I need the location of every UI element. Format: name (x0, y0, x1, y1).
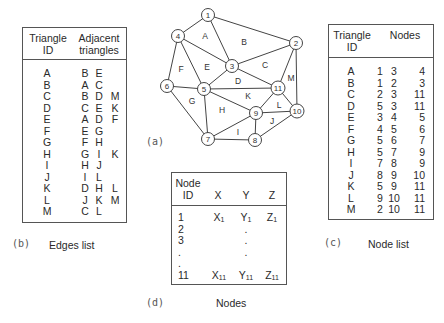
node-id: 7 (399, 135, 425, 146)
graph-node: 11 (271, 81, 285, 95)
table-row: GFH (23, 137, 126, 148)
node-id: 2 (373, 89, 387, 100)
table-row: KDHL (23, 183, 126, 194)
table-row: E345 (329, 112, 433, 123)
table-row: IHJ (23, 160, 126, 171)
triangle-id: G (341, 135, 361, 146)
adjacent-triangle: B (79, 91, 91, 102)
table-row: K5911 (329, 181, 433, 192)
node-label: 11 (274, 84, 283, 93)
adjacent-triangle: F (109, 114, 121, 125)
graph-node: 3 (226, 60, 239, 73)
adjacent-triangle: H (93, 183, 105, 194)
node-label: 4 (176, 32, 181, 41)
triangle-label: F (178, 64, 183, 74)
adjacent-triangle: C (79, 103, 91, 114)
adjacent-triangle: D (79, 183, 91, 194)
graph-edge (204, 88, 278, 89)
table-row: CBDM (23, 91, 126, 102)
node-id: 3 (399, 78, 425, 89)
triangle-id: E (37, 114, 57, 125)
triangle-id: J (37, 172, 57, 183)
triangle-id: A (341, 66, 361, 77)
node-id: 1 (178, 212, 184, 223)
node-id: 4 (399, 66, 425, 77)
adjacent-triangle: I (79, 172, 91, 183)
table-row: JIL (23, 172, 126, 183)
node-label: 10 (293, 107, 302, 116)
node-id: 3 (373, 112, 387, 123)
triangle-label: J (270, 116, 274, 126)
node-label: 8 (253, 136, 258, 145)
adjacent-triangle: J (93, 160, 105, 171)
table-row: LJKM (23, 195, 126, 206)
node-id: 3 (178, 235, 184, 246)
graph-edge (204, 89, 208, 139)
adjacent-triangle: A (79, 114, 91, 125)
figure-label-c: (c) (324, 237, 342, 249)
edges-list-caption: Edges list (49, 239, 95, 251)
triangle-label: E (204, 62, 210, 72)
node-label: 6 (165, 82, 170, 91)
adjacent-triangle: C (93, 80, 105, 91)
triangle-id: F (341, 124, 361, 135)
table-row: J8910 (329, 170, 433, 181)
node-label: 5 (202, 85, 207, 94)
node-id: 2 (178, 224, 184, 235)
triangle-id: M (341, 204, 361, 215)
adjacent-triangle: L (93, 172, 105, 183)
y-value: Y11 (232, 270, 260, 283)
nodes-caption: Nodes (216, 297, 246, 309)
triangle-id: L (341, 193, 361, 204)
table-row: 2. (172, 224, 286, 235)
nodes-table: Node ID X Y Z 1X1Y1Z12.3....11X11Y11Z11 (171, 172, 287, 285)
triangle-id: C (37, 91, 57, 102)
node-id: 7 (373, 158, 387, 169)
nodes-table-header: Node ID X Y Z (172, 173, 286, 206)
node-id: 5 (373, 181, 387, 192)
table-row: 11X11Y11Z11 (172, 270, 286, 281)
triangle-id: K (37, 183, 57, 194)
table-row: G567 (329, 135, 433, 146)
adjacent-triangle: D (93, 114, 105, 125)
adjacent-triangle: H (79, 160, 91, 171)
triangle-label: M (287, 73, 294, 83)
triangle-id: L (37, 195, 57, 206)
graph-node: 10 (290, 104, 304, 118)
node-id: 11 (399, 89, 425, 100)
triangle-id: J (341, 170, 361, 181)
triangle-id: D (37, 103, 57, 114)
triangle-label: H (219, 105, 225, 115)
node-id: 2 (373, 204, 387, 215)
triangle-label: B (241, 37, 247, 47)
triangle-id: K (341, 181, 361, 192)
adjacent-triangle: G (79, 149, 91, 160)
graph-node: 9 (250, 107, 263, 120)
table-row: HGIK (23, 149, 126, 160)
edges-list-table: Triangle ID Adjacent triangles ABEBACCBD… (22, 27, 127, 223)
node-id: 8 (373, 170, 387, 181)
figure-label-d: (d) (146, 297, 164, 309)
adjacent-triangle: E (79, 126, 91, 137)
node-id: 10 (399, 170, 425, 181)
adjacent-triangle: E (93, 103, 105, 114)
header-adjacent-triangles: Adjacent triangles (73, 32, 125, 56)
graph-edges (167, 15, 297, 140)
adjacent-triangle: K (109, 149, 121, 160)
node-id: 11 (399, 101, 425, 112)
adjacent-triangle: C (79, 206, 91, 217)
table-row: F456 (329, 124, 433, 135)
node-list-header: Triangle ID Nodes (329, 25, 433, 58)
node-label: 3 (230, 62, 235, 71)
header-triangle-id: Triangle ID (25, 32, 71, 56)
graph-edge (296, 43, 297, 111)
node-id: 11 (399, 193, 425, 204)
table-row: EADF (23, 114, 126, 125)
triangle-label: K (245, 91, 251, 101)
adjacent-triangle: D (93, 91, 105, 102)
header-z: Z (260, 189, 284, 201)
x-value: X11 (206, 270, 232, 283)
graph-edge (178, 36, 204, 89)
graph-node: 6 (161, 80, 174, 93)
table-row: C2311 (329, 89, 433, 100)
